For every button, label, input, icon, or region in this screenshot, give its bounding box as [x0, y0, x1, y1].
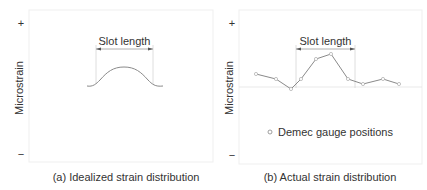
panel-b-y-minus: − — [229, 149, 235, 161]
panel-a: + − Microstrain Slot length (a) Idealize… — [13, 10, 213, 183]
arrow-left-icon — [96, 48, 101, 51]
panel-a-frame — [29, 10, 213, 162]
panel-b-strain-line — [256, 54, 399, 89]
demec-gauge-markers — [254, 52, 400, 90]
panel-b-slot-label: Slot length — [300, 35, 352, 47]
panel-a-y-label: Microstrain — [13, 61, 25, 115]
panel-a-slot-label: Slot length — [99, 35, 151, 47]
panel-a-y-plus: + — [18, 17, 24, 29]
panel-a-strain-curve — [87, 67, 163, 86]
figure: + − Microstrain Slot length (a) Idealize… — [0, 0, 427, 190]
panel-a-caption: (a) Idealized strain distribution — [53, 171, 200, 183]
panel-b-y-plus: + — [229, 17, 235, 29]
panel-b-caption: (b) Actual strain distribution — [264, 171, 397, 183]
panel-a-y-minus: − — [18, 148, 24, 160]
panel-b: + − Microstrain Slot length Demec gauge … — [223, 10, 422, 183]
legend-marker-icon — [268, 130, 272, 134]
panel-b-y-label: Microstrain — [223, 61, 235, 115]
arrow-right-icon — [350, 48, 355, 51]
panel-b-legend-label: Demec gauge positions — [278, 126, 393, 138]
arrow-right-icon — [148, 48, 153, 51]
arrow-left-icon — [296, 48, 301, 51]
